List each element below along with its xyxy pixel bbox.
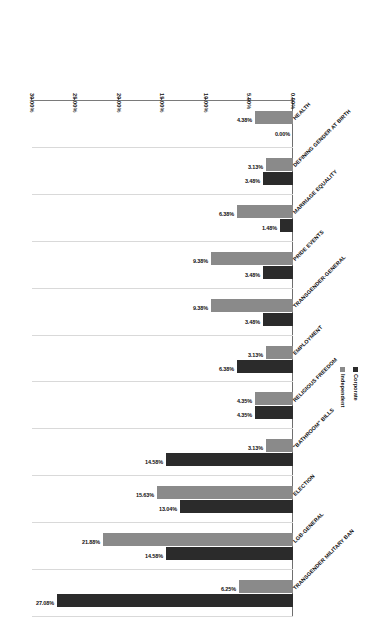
category-label: TRANSGENDER-GENERAL	[292, 254, 347, 309]
bar	[57, 594, 293, 607]
legend-label: Independent	[340, 374, 346, 407]
bar-value-label: 6.25%	[221, 586, 236, 592]
bar-group: 13.04%15.63%	[32, 476, 293, 523]
bar-value-label: 9.38%	[193, 258, 208, 264]
axis-tick-label: 15.00%	[160, 93, 166, 113]
bar-value-label: 4.35%	[237, 398, 252, 404]
bar-value-label: 0.00%	[275, 131, 290, 137]
legend-item[interactable]: Independent	[340, 367, 346, 407]
bar-value-label: 3.48%	[245, 272, 260, 278]
bar-value-label: 15.63%	[136, 492, 154, 498]
category-label: ELECTION	[292, 473, 316, 497]
bar	[238, 360, 294, 373]
category-label: EMPLOYMENT	[292, 324, 324, 356]
bar	[103, 533, 293, 546]
rotated-figure-wrapper: 27.08%6.25%14.58%21.88%13.04%15.63%14.58…	[0, 0, 371, 625]
axis-tick-label: 0.00%	[290, 93, 296, 109]
bar	[255, 111, 293, 124]
bar-value-label: 3.13%	[248, 352, 263, 358]
legend-label: Corporate	[353, 374, 359, 401]
legend-swatch	[341, 367, 346, 372]
bar-value-label: 14.58%	[145, 553, 163, 559]
bar	[211, 299, 293, 312]
legend-swatch	[354, 367, 359, 372]
bar-value-label: 6.38%	[219, 366, 234, 372]
bar-group: 4.35%4.35%	[32, 382, 293, 429]
bar-value-label: 6.38%	[219, 211, 234, 217]
axis-tick-label: 5.00%	[247, 93, 253, 109]
bar	[263, 172, 293, 185]
axis-tick-label: 30.00%	[29, 93, 35, 113]
bar-group: 1.48%6.38%	[32, 195, 293, 242]
bar-group: 27.08%6.25%	[32, 570, 293, 617]
category-label: PRIDE EVENTS	[292, 229, 325, 262]
bar-value-label: 4.38%	[237, 117, 252, 123]
bar-value-label: 3.13%	[248, 164, 263, 170]
legend-item[interactable]: Corporate	[353, 367, 359, 401]
bar	[211, 252, 293, 265]
bar-value-label: 3.13%	[248, 445, 263, 451]
category-label: LGB-GENERAL	[292, 511, 325, 544]
bar-value-label: 14.58%	[145, 459, 163, 465]
chart-figure: 27.08%6.25%14.58%21.88%13.04%15.63%14.58…	[0, 0, 371, 625]
axis-tick-label: 25.00%	[73, 93, 79, 113]
bar-group: 3.48%9.38%	[32, 289, 293, 336]
bar	[255, 392, 293, 405]
bar	[263, 266, 293, 279]
bar-value-label: 13.04%	[159, 506, 177, 512]
bar	[166, 547, 293, 560]
plot-area: 27.08%6.25%14.58%21.88%13.04%15.63%14.58…	[32, 101, 293, 617]
bar	[239, 580, 293, 593]
bar	[180, 500, 293, 513]
bar	[263, 313, 293, 326]
bar-group: 6.38%3.13%	[32, 336, 293, 383]
bar	[157, 486, 293, 499]
bar	[166, 453, 293, 466]
bar	[238, 205, 294, 218]
bar-group: 14.58%21.88%	[32, 523, 293, 570]
category-label: MARRIAGE EQUALITY	[292, 169, 339, 216]
bar-group: 3.48%9.38%	[32, 242, 293, 289]
bar-value-label: 3.48%	[245, 178, 260, 184]
axis-tick-label: 10.00%	[203, 93, 209, 113]
bar-value-label: 3.48%	[245, 319, 260, 325]
bar	[266, 439, 293, 452]
bar	[255, 406, 293, 419]
bar-value-label: 9.38%	[193, 305, 208, 311]
bar	[266, 346, 293, 359]
category-label: DEFINING GENDER AT BIRTH	[292, 108, 352, 168]
bar-value-label: 27.08%	[36, 600, 54, 606]
axis-tick-label: 20.00%	[116, 93, 122, 113]
bar	[266, 158, 293, 171]
bar-group: 3.48%3.13%	[32, 148, 293, 195]
bar	[280, 219, 293, 232]
bar-value-label: 1.48%	[262, 225, 277, 231]
bar-value-label: 21.88%	[82, 539, 100, 545]
bar-value-label: 4.35%	[237, 412, 252, 418]
category-label: "BATHROOM" BILLS	[292, 407, 335, 450]
bar-group: 14.58%3.13%	[32, 429, 293, 476]
category-label: RELIGIOUS FREEDOM	[292, 356, 339, 403]
